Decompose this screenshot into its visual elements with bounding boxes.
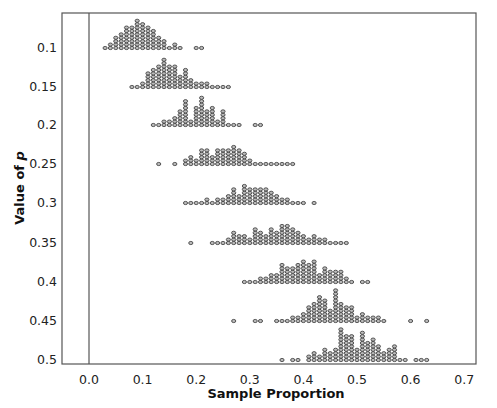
plot-frame — [62, 13, 476, 364]
data-dot — [205, 82, 209, 85]
data-dot — [200, 162, 204, 165]
data-dot — [221, 241, 225, 244]
data-dot — [334, 241, 338, 244]
data-dot — [162, 75, 166, 78]
data-dot — [307, 358, 311, 361]
data-dot — [232, 198, 236, 201]
data-dot — [307, 241, 311, 244]
data-dot — [280, 162, 284, 165]
data-dot — [339, 241, 343, 244]
data-dot — [258, 319, 262, 322]
data-dot — [189, 156, 193, 159]
data-dot — [275, 201, 279, 204]
data-dot — [178, 75, 182, 78]
data-dot — [301, 260, 305, 263]
dotplot-chart: 0.00.10.20.30.40.50.60.7 0.10.150.20.250… — [0, 0, 497, 408]
data-dot — [157, 162, 161, 165]
x-tick-label: 0.7 — [454, 372, 474, 387]
data-dot — [334, 316, 338, 319]
data-dot — [210, 241, 214, 244]
data-dot — [371, 352, 375, 355]
data-dot — [189, 82, 193, 85]
data-dot — [312, 355, 316, 358]
data-dot — [162, 72, 166, 75]
data-dot — [216, 198, 220, 201]
data-dot — [205, 85, 209, 88]
data-dot — [350, 358, 354, 361]
data-dot — [237, 195, 241, 198]
data-dot — [425, 319, 429, 322]
data-dot — [157, 72, 161, 75]
data-dot — [280, 198, 284, 201]
data-dot — [157, 85, 161, 88]
data-dot — [242, 201, 246, 204]
data-dot — [350, 352, 354, 355]
data-dot — [216, 149, 220, 152]
data-dot — [194, 82, 198, 85]
data-dot — [392, 358, 396, 361]
data-dot — [392, 355, 396, 358]
data-dot — [162, 123, 166, 126]
data-dot — [291, 358, 295, 361]
data-dot — [360, 341, 364, 344]
data-dot — [419, 358, 423, 361]
data-dot — [108, 46, 112, 49]
data-dot — [414, 358, 418, 361]
data-dot — [280, 270, 284, 273]
data-dot — [258, 198, 262, 201]
y-tick-label: 0.5 — [37, 352, 57, 367]
data-dot — [135, 33, 139, 36]
x-tick-label: 0.1 — [133, 372, 153, 387]
data-dot — [301, 270, 305, 273]
data-dot — [232, 149, 236, 152]
data-dot — [189, 162, 193, 165]
data-dot — [376, 348, 380, 351]
data-dot — [200, 82, 204, 85]
data-dot — [301, 277, 305, 280]
data-dot — [210, 159, 214, 162]
data-dot — [178, 82, 182, 85]
data-dot — [301, 313, 305, 316]
data-dot — [200, 117, 204, 120]
data-dot — [312, 316, 316, 319]
data-dot — [409, 319, 413, 322]
data-dot — [376, 316, 380, 319]
data-dot — [221, 159, 225, 162]
data-dot — [301, 263, 305, 266]
data-dot — [242, 162, 246, 165]
data-dot — [200, 159, 204, 162]
data-dot — [291, 238, 295, 241]
data-dot — [360, 352, 364, 355]
data-dot — [312, 260, 316, 263]
data-dot — [280, 201, 284, 204]
data-dot — [226, 159, 230, 162]
data-dot — [334, 296, 338, 299]
data-dot — [167, 82, 171, 85]
data-dot — [151, 46, 155, 49]
data-dot — [323, 267, 327, 270]
data-dot — [135, 43, 139, 46]
data-dot — [291, 274, 295, 277]
data-dot — [312, 358, 316, 361]
data-dot — [114, 43, 118, 46]
data-dot — [350, 345, 354, 348]
data-dot — [232, 156, 236, 159]
data-dot — [258, 188, 262, 191]
data-dot — [323, 319, 327, 322]
data-dot — [162, 79, 166, 82]
data-dot — [296, 235, 300, 238]
data-dot — [360, 358, 364, 361]
data-dot — [210, 120, 214, 123]
data-dot — [183, 123, 187, 126]
data-dot — [253, 201, 257, 204]
data-dot — [157, 123, 161, 126]
data-dot — [317, 302, 321, 305]
data-dot — [194, 162, 198, 165]
data-dot — [275, 195, 279, 198]
data-dot — [119, 46, 123, 49]
data-dot — [200, 85, 204, 88]
data-dot — [141, 46, 145, 49]
data-dot — [328, 241, 332, 244]
data-dot — [242, 280, 246, 283]
data-dot — [189, 120, 193, 123]
